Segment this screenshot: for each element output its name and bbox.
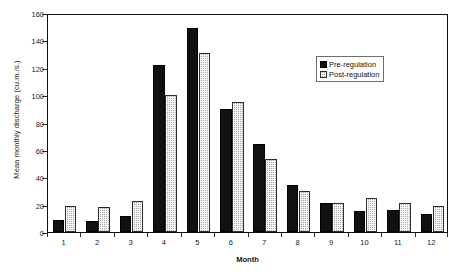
x-axis-tick-label-12: 12 [416, 238, 446, 247]
x-axis-tick-mark [348, 233, 349, 237]
bar-group-month-3 [115, 15, 148, 232]
bar-post-regulation-month-8 [299, 191, 311, 232]
bar-group-month-7 [249, 15, 282, 232]
x-axis-tick-mark [181, 233, 182, 237]
bars-layer [48, 15, 447, 232]
x-axis-tick-mark [281, 233, 282, 237]
legend-label-pre-regulation: Pre-regulation [329, 60, 376, 69]
bar-post-regulation-month-7 [265, 159, 277, 232]
x-axis-tick-mark [314, 233, 315, 237]
bar-pre-regulation-month-2 [86, 221, 98, 232]
x-axis-tick-label-8: 8 [283, 238, 313, 247]
bar-post-regulation-month-9 [332, 203, 344, 232]
x-axis-tick-mark [214, 233, 215, 237]
bar-pre-regulation-month-7 [253, 144, 265, 232]
x-axis-tick-label-11: 11 [383, 238, 413, 247]
bar-post-regulation-month-1 [65, 206, 77, 232]
bar-pre-regulation-month-4 [153, 65, 165, 232]
legend-item-pre-regulation: Pre-regulation [320, 59, 379, 69]
bar-pre-regulation-month-9 [320, 203, 332, 232]
x-axis-tick-label-10: 10 [349, 238, 379, 247]
bar-pre-regulation-month-11 [387, 210, 399, 232]
x-axis-tick-labels: 123456789101112 [47, 238, 448, 252]
x-axis-tick-label-3: 3 [116, 238, 146, 247]
x-axis-tick-mark [415, 233, 416, 237]
bar-post-regulation-month-3 [132, 201, 144, 232]
x-axis-tick-label-5: 5 [182, 238, 212, 247]
bar-group-month-1 [48, 15, 81, 232]
legend-swatch-post-regulation-icon [320, 71, 327, 78]
x-axis-tick-mark [80, 233, 81, 237]
bar-group-month-4 [148, 15, 181, 232]
x-axis-title: Month [47, 255, 448, 264]
bar-post-regulation-month-5 [199, 53, 211, 232]
bar-group-month-11 [382, 15, 415, 232]
x-axis-tick-mark [447, 233, 448, 237]
chart-legend: Pre-regulation Post-regulation [316, 56, 384, 82]
bar-group-month-8 [282, 15, 315, 232]
bar-post-regulation-month-12 [433, 206, 445, 232]
x-axis-tick-label-7: 7 [249, 238, 279, 247]
bar-group-month-12 [416, 15, 449, 232]
x-axis-tick-label-4: 4 [149, 238, 179, 247]
bar-group-month-10 [349, 15, 382, 232]
bar-pre-regulation-month-1 [53, 220, 65, 232]
x-axis-tick-mark [147, 233, 148, 237]
bar-pre-regulation-month-10 [354, 211, 366, 232]
bar-post-regulation-month-10 [366, 198, 378, 232]
x-axis-tick-label-2: 2 [82, 238, 112, 247]
x-axis-tick-label-9: 9 [316, 238, 346, 247]
bar-pre-regulation-month-3 [120, 216, 132, 232]
bar-pre-regulation-month-6 [220, 109, 232, 232]
plot-area: Pre-regulation Post-regulation [47, 14, 448, 233]
bar-group-month-9 [315, 15, 348, 232]
bar-post-regulation-month-6 [232, 102, 244, 232]
bar-post-regulation-month-11 [399, 203, 411, 232]
bar-group-month-5 [182, 15, 215, 232]
bar-chart-figure: Mean monthly discharge (cu.m./s.) 020406… [0, 0, 467, 280]
bar-group-month-6 [215, 15, 248, 232]
bar-pre-regulation-month-8 [287, 185, 299, 232]
x-axis-tick-mark [114, 233, 115, 237]
legend-label-post-regulation: Post-regulation [329, 70, 379, 79]
bar-group-month-2 [81, 15, 114, 232]
bar-pre-regulation-month-12 [421, 214, 433, 232]
x-axis-tick-label-6: 6 [216, 238, 246, 247]
x-axis-tick-mark [381, 233, 382, 237]
legend-swatch-pre-regulation-icon [320, 61, 327, 68]
legend-item-post-regulation: Post-regulation [320, 69, 379, 79]
x-axis-tick-mark [47, 233, 48, 237]
bar-post-regulation-month-4 [165, 95, 177, 232]
bar-post-regulation-month-2 [98, 207, 110, 232]
bar-pre-regulation-month-5 [187, 28, 199, 232]
x-axis-tick-label-1: 1 [49, 238, 79, 247]
x-axis-tick-mark [248, 233, 249, 237]
